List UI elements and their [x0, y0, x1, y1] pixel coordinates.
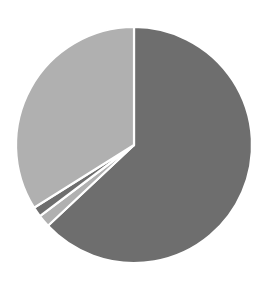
pie-chart-figure: [0, 0, 266, 283]
pie-chart-canvas: [0, 0, 266, 283]
pie-slices-group: [16, 27, 252, 263]
